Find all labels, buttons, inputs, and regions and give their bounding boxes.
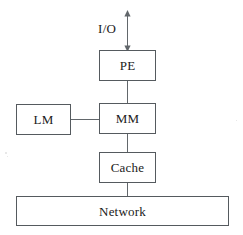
connector-pe-to-mm (127, 81, 128, 103)
io-label: I/O (98, 22, 116, 35)
connector-lm-to-mm (71, 119, 99, 120)
scan-speck (7, 156, 8, 157)
scan-speck (5, 152, 7, 154)
connector-cache-to-network (127, 183, 128, 196)
connector-mm-to-cache (127, 134, 128, 152)
node-cache[interactable]: Cache (99, 152, 156, 183)
node-mm[interactable]: MM (99, 103, 156, 134)
scan-speck (236, 120, 237, 121)
io-bidirectional-arrow-icon (120, 10, 135, 52)
node-pe[interactable]: PE (99, 50, 156, 81)
node-network[interactable]: Network (16, 196, 229, 226)
node-lm[interactable]: LM (16, 104, 71, 135)
diagram-canvas: I/O PE LM MM Cache Network (0, 0, 243, 235)
